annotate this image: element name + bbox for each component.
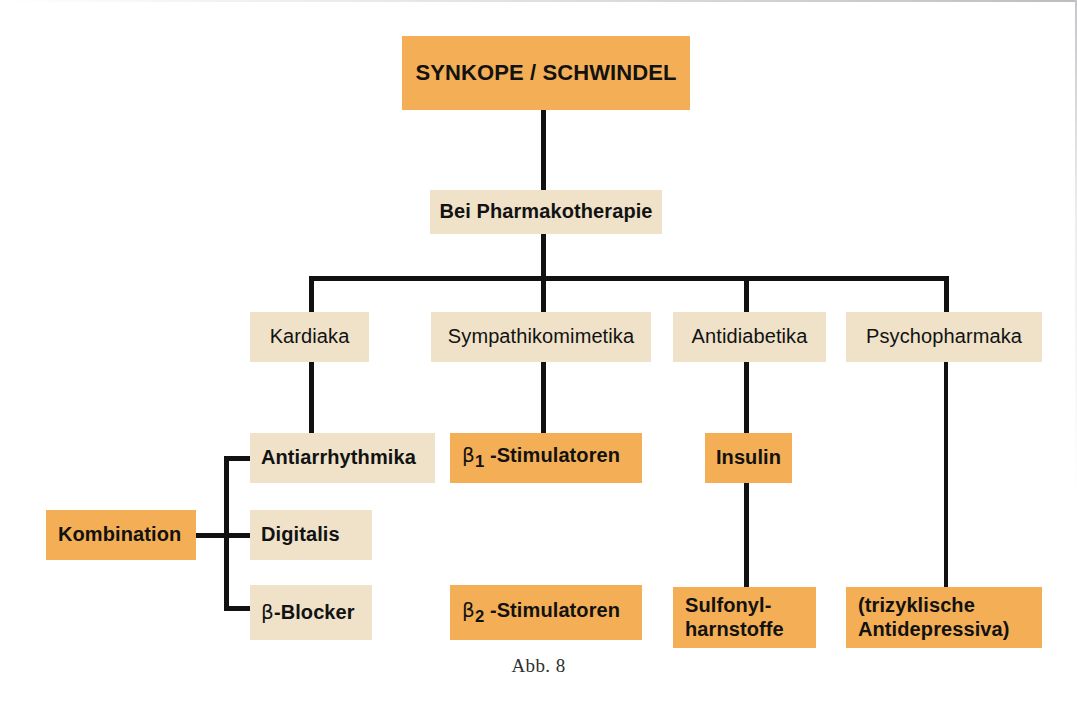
node-psychopharmaka-label: Psychopharmaka — [846, 325, 1042, 348]
beta-glyph: β — [261, 600, 274, 624]
node-sympathikomimetika[interactable]: Sympathikomimetika — [431, 312, 651, 362]
node-sympathikomimetika-label: Sympathikomimetika — [431, 325, 651, 348]
node-beta1-stimulatoren[interactable]: β1 -Stimulatoren — [450, 433, 642, 483]
beta-glyph: β — [462, 598, 475, 622]
beta2-subscript: 2 — [475, 607, 484, 626]
node-digitalis-label: Digitalis — [261, 523, 372, 546]
node-kombination-label: Kombination — [58, 523, 196, 546]
connector-root-to-therapy — [541, 110, 546, 190]
beta-blocker-suffix: -Blocker — [274, 601, 355, 623]
node-beta2-stimulatoren-label: β2 -Stimulatoren — [462, 599, 642, 626]
connector-bus-to-kardiaka — [309, 276, 314, 313]
connector-bus-horizontal — [309, 276, 949, 281]
beta-glyph: β — [462, 443, 475, 467]
node-sulfonylharnstoffe[interactable]: Sulfonyl- harnstoffe — [673, 587, 816, 648]
node-antidiabetika-label: Antidiabetika — [673, 325, 826, 348]
connector-kombination-to-bracket — [196, 533, 229, 538]
connector-antidiabetika-to-insulin — [744, 362, 749, 433]
node-trizyklische-antidepressiva[interactable]: (trizyklische Antidepressiva) — [846, 587, 1042, 648]
node-synkope-schwindel[interactable]: SYNKOPE / SCHWINDEL — [402, 36, 690, 110]
node-sulfonylharnstoffe-label: Sulfonyl- harnstoffe — [685, 594, 816, 640]
scan-edge-top — [0, 0, 1077, 2]
node-psychopharmaka[interactable]: Psychopharmaka — [846, 312, 1042, 362]
figure-canvas: SYNKOPE / SCHWINDEL Bei Pharmakotherapie… — [0, 0, 1077, 718]
node-trizyklische-antidepressiva-label: (trizyklische Antidepressiva) — [858, 594, 1042, 640]
node-bei-pharmakotherapie-label: Bei Pharmakotherapie — [430, 200, 662, 223]
connector-bus-to-sympathikomimetika — [541, 276, 546, 313]
connector-bus-to-psychopharmaka — [944, 276, 949, 313]
node-antiarrhythmika-label: Antiarrhythmika — [261, 446, 435, 469]
connector-bus-to-antidiabetika — [744, 276, 749, 313]
connector-kardiaka-to-antiarrhythmika — [309, 362, 314, 433]
sulfonylharnstoffe-line1: Sulfonyl- — [685, 594, 771, 616]
connector-insulin-to-sulfonylharnstoffe — [744, 483, 749, 587]
node-synkope-schwindel-label: SYNKOPE / SCHWINDEL — [402, 60, 690, 86]
node-insulin[interactable]: Insulin — [705, 433, 792, 483]
node-beta1-stimulatoren-label: β1 -Stimulatoren — [462, 444, 642, 471]
connector-psychopharmaka-to-trizyklische — [944, 340, 948, 587]
sulfonylharnstoffe-line2: harnstoffe — [685, 618, 784, 640]
node-beta-blocker-label: β-Blocker — [261, 601, 372, 624]
connector-sympathikomimetika-to-beta1 — [541, 362, 546, 433]
beta1-subscript: 1 — [475, 452, 484, 471]
node-insulin-label: Insulin — [705, 446, 792, 469]
node-antidiabetika[interactable]: Antidiabetika — [673, 312, 826, 362]
trizyklische-line2: Antidepressiva) — [858, 618, 1010, 640]
figure-caption: Abb. 8 — [0, 655, 1077, 677]
node-bei-pharmakotherapie[interactable]: Bei Pharmakotherapie — [430, 190, 662, 234]
trizyklische-line1: (trizyklische — [858, 594, 975, 616]
node-kombination[interactable]: Kombination — [46, 510, 196, 560]
beta2-suffix: -Stimulatoren — [484, 599, 620, 621]
beta1-suffix: -Stimulatoren — [484, 444, 620, 466]
node-digitalis[interactable]: Digitalis — [250, 510, 372, 560]
connector-therapy-to-bus — [541, 233, 546, 281]
node-kardiaka[interactable]: Kardiaka — [250, 312, 369, 362]
node-beta2-stimulatoren[interactable]: β2 -Stimulatoren — [450, 585, 642, 640]
node-beta-blocker[interactable]: β-Blocker — [250, 585, 372, 640]
node-antiarrhythmika[interactable]: Antiarrhythmika — [250, 433, 435, 483]
node-kardiaka-label: Kardiaka — [250, 325, 369, 348]
